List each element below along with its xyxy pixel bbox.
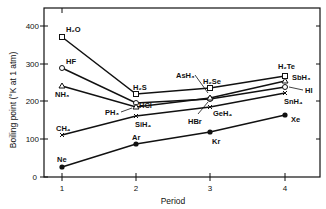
- line-group14: [62, 93, 285, 135]
- y-tick-labels: 0 100 200 300 400: [26, 22, 40, 182]
- series-lines: [62, 37, 285, 167]
- label-geh4: GeH₄: [213, 109, 232, 118]
- label-sih4: SiH₄: [135, 120, 152, 129]
- label-hbr: HBr: [188, 117, 202, 126]
- label-ash3: AsH₃: [176, 71, 195, 80]
- x-axis-label: Period: [161, 196, 186, 206]
- label-ar: Ar: [132, 133, 140, 142]
- label-ph3: PH₃: [105, 108, 119, 117]
- y-axis-label: Boiling point (°K at 1 atm): [8, 52, 18, 149]
- y-tick-100: 100: [26, 135, 40, 144]
- label-nh3: NH₃: [55, 90, 70, 99]
- boiling-point-chart: 0 100 200 300 400 1 2 3 4 Period Boiling…: [0, 0, 326, 209]
- x-tick-2: 2: [134, 184, 139, 193]
- y-tick-200: 200: [26, 97, 40, 106]
- label-h2se: H₂Se: [203, 77, 221, 86]
- label-snh4: SnH₄: [284, 97, 303, 106]
- label-ch4: CH₄: [56, 124, 71, 133]
- x-tick-1: 1: [60, 184, 65, 193]
- line-group16: [62, 37, 285, 94]
- line-noble: [62, 115, 285, 167]
- x-axis: [62, 8, 285, 181]
- label-h2o: H₂O: [66, 25, 81, 34]
- label-ne: Ne: [57, 155, 67, 164]
- label-h2s: H₂S: [133, 83, 147, 92]
- x-tick-4: 4: [283, 184, 288, 193]
- label-xe: Xe: [291, 115, 300, 124]
- label-hf: HF: [66, 57, 76, 66]
- y-tick-0: 0: [33, 173, 38, 182]
- label-hcl: HCl: [139, 101, 152, 110]
- label-h2te: H₂Te: [278, 62, 295, 71]
- line-group15: [62, 81, 285, 107]
- label-kr: Kr: [212, 137, 220, 146]
- label-hi: HI: [305, 86, 313, 95]
- line-group17: [62, 68, 285, 103]
- x-tick-3: 3: [208, 184, 213, 193]
- x-tick-labels: 1 2 3 4: [60, 184, 288, 193]
- label-sbh3: SbH₃: [292, 73, 311, 82]
- y-tick-400: 400: [26, 22, 40, 31]
- y-tick-300: 300: [26, 60, 40, 69]
